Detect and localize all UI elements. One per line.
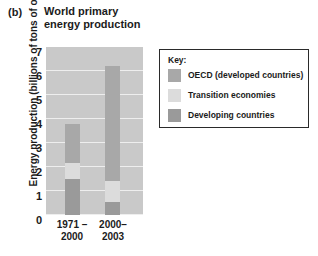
- chart-legend: Key: OECD (developed countries) Transiti…: [159, 49, 309, 128]
- legend-swatch-icon-developing: [168, 109, 181, 122]
- legend-swatch-icon-transition: [168, 89, 181, 102]
- panel-letter: (b): [8, 6, 22, 18]
- figure-header: (b) World primary energy production: [0, 4, 318, 40]
- gridline: [46, 94, 143, 95]
- x-axis-label-1: 2000– 2003: [90, 219, 136, 243]
- gridline: [46, 70, 143, 71]
- gridline: [46, 166, 143, 167]
- page-title: World primary energy production: [44, 5, 164, 31]
- gridline: [46, 142, 143, 143]
- chart-plot-region: 01234567 1971 – 2000 2000– 2003: [46, 47, 143, 215]
- gridline: [46, 190, 143, 191]
- plot-area: [46, 47, 143, 215]
- bar-segment: [105, 181, 120, 201]
- bar-segment: [105, 202, 120, 215]
- bar-stack-2000-2003: [105, 66, 120, 215]
- x-axis-label-0: 1971 – 2000: [49, 219, 95, 243]
- legend-swatch-icon-oecd: [168, 69, 181, 82]
- bar-segment: [65, 163, 80, 179]
- bar-segment: [65, 179, 80, 215]
- gridline: [46, 118, 143, 119]
- legend-label-developing: Developing countries: [188, 110, 274, 121]
- legend-title: Key:: [168, 55, 186, 65]
- legend-label-oecd: OECD (developed countries): [188, 70, 303, 81]
- legend-label-transition: Transition economies: [188, 90, 275, 101]
- bar-segment: [105, 66, 120, 181]
- bar-stack-1971-2000: [65, 124, 80, 215]
- bar-segment: [65, 124, 80, 164]
- gridline: [46, 214, 143, 215]
